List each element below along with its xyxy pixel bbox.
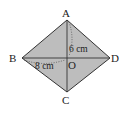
rhombus-diagram: A B C D O 6 cm 8 cm [0, 0, 129, 118]
rhombus-abcd [22, 20, 110, 92]
measurement-ao: 6 cm [69, 44, 88, 54]
vertex-label-b: B [9, 52, 16, 64]
vertex-label-a: A [62, 7, 70, 19]
center-label-o: O [68, 59, 76, 71]
vertex-label-d: D [111, 52, 119, 64]
measurement-bo: 8 cm [35, 61, 54, 71]
vertex-label-c: C [62, 94, 69, 106]
